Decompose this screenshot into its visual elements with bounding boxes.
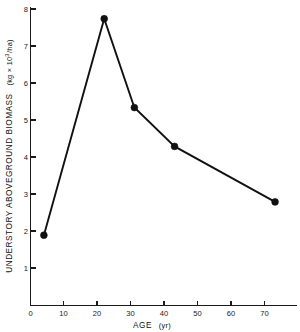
y-tick-label: 6 (24, 79, 28, 88)
x-tick-label: 20 (93, 309, 101, 318)
x-tick-label: 70 (260, 309, 268, 318)
data-point (131, 104, 138, 111)
x-axis-title: AGE (yr) (133, 321, 171, 330)
y-axis-title: UNDERSTORY ABOVEGROUND BIOMASS (kg × 103… (4, 39, 14, 273)
x-tick-label: 40 (160, 309, 168, 318)
x-tick-label: 30 (126, 309, 134, 318)
y-axis-title-main: UNDERSTORY ABOVEGROUND BIOMASS (5, 93, 14, 272)
y-tick-label: 1 (24, 264, 28, 273)
x-axis-title-main: AGE (133, 321, 152, 330)
x-tick-label: 50 (193, 309, 201, 318)
data-point (101, 15, 108, 22)
svg-text:AGE (yr): AGE (yr) (133, 321, 171, 330)
understory-biomass-line-chart: 8 7 6 5 4 3 2 1 0 10 20 30 40 50 60 70 U… (0, 0, 300, 332)
x-tick-label: 10 (59, 309, 67, 318)
y-tick-label: 3 (24, 190, 28, 199)
y-tick-label: 4 (24, 153, 28, 162)
data-point (171, 143, 178, 150)
svg-text:UNDERSTORY ABOVEGROUND BIOMASS: UNDERSTORY ABOVEGROUND BIOMASS (kg × 103… (4, 39, 14, 273)
data-point (41, 232, 48, 239)
x-tick-label: 60 (227, 309, 235, 318)
x-axis-title-units: (yr) (159, 321, 171, 330)
y-axis-title-units-prefix: (kg × 10 (5, 57, 14, 86)
y-axis-title-units-suffix: /ha) (5, 39, 14, 53)
y-tick-label: 5 (24, 116, 28, 125)
data-point (272, 199, 279, 206)
y-tick-label: 7 (24, 42, 28, 51)
chart-background (0, 0, 300, 332)
x-tick-label: 0 (28, 309, 32, 318)
y-tick-label: 2 (24, 227, 28, 236)
y-tick-label: 8 (24, 5, 28, 14)
